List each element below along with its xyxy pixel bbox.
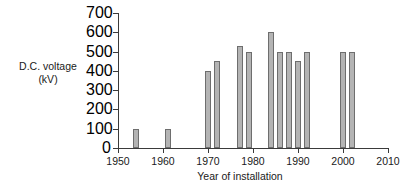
x-axis-tick (343, 148, 344, 153)
y-axis-tick-label: 100 (86, 120, 111, 138)
x-axis-tick-label: 1950 (98, 155, 138, 167)
bar (304, 52, 310, 148)
x-axis-tick (253, 148, 254, 153)
bar (205, 71, 211, 148)
y-axis-title: D.C. voltage (kV) (6, 60, 90, 86)
y-axis-tick (113, 90, 118, 91)
y-axis-tick-label: 600 (86, 23, 111, 41)
x-axis-tick (163, 148, 164, 153)
y-axis-tick (113, 71, 118, 72)
y-axis-tick-label: 500 (86, 43, 111, 61)
bar (214, 61, 220, 148)
bar (133, 129, 139, 148)
y-axis-title-line1: D.C. voltage (19, 60, 77, 72)
x-axis-tick (208, 148, 209, 153)
bar (277, 52, 283, 148)
y-axis-line (118, 13, 119, 149)
y-axis-tick-label: 200 (86, 100, 111, 118)
bar-chart-figure: D.C. voltage (kV) 0100200300400500600700… (0, 0, 408, 193)
bar (295, 61, 301, 148)
x-axis-tick (118, 148, 119, 153)
x-axis-tick (388, 148, 389, 153)
x-axis-tick-label: 1990 (278, 155, 318, 167)
y-axis-tick (113, 109, 118, 110)
y-axis-tick (113, 52, 118, 53)
bar (349, 52, 355, 148)
x-axis-tick-label: 2010 (368, 155, 408, 167)
y-axis-tick-label: 300 (86, 81, 111, 99)
x-axis-tick (298, 148, 299, 153)
bar (340, 52, 346, 148)
bar (165, 129, 171, 148)
y-axis-tick-label: 700 (86, 4, 111, 22)
bar (268, 32, 274, 148)
x-axis-tick-label: 2000 (323, 155, 363, 167)
x-axis-tick-label: 1970 (188, 155, 228, 167)
x-axis-tick-label: 1980 (233, 155, 273, 167)
y-axis-tick (113, 13, 118, 14)
x-axis-title: Year of installation (150, 170, 330, 182)
y-axis-title-line2: (kV) (6, 73, 90, 86)
x-axis-tick-label: 1960 (143, 155, 183, 167)
y-axis-tick (113, 129, 118, 130)
y-axis-tick-label: 400 (86, 62, 111, 80)
bar (246, 52, 252, 148)
y-axis-tick (113, 32, 118, 33)
bar (237, 46, 243, 148)
bar (286, 52, 292, 148)
